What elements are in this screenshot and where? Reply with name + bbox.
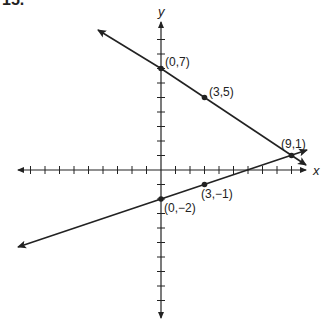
label-0-neg2: (0,−2) (164, 201, 196, 215)
label-9-1: (9,1) (281, 137, 306, 151)
y-axis-label: y (157, 4, 166, 19)
point-3-5 (202, 95, 208, 101)
line-1 (98, 30, 161, 69)
point-0-7 (158, 66, 164, 72)
label-3-5: (3,5) (209, 85, 234, 99)
line-2 (161, 150, 307, 199)
point-9-1 (289, 153, 295, 159)
label-0-7: (0,7) (165, 55, 190, 69)
coordinate-graph: x y (0,7) (3,5) (9,1) (0,−2) (3,−1) (0, 0, 328, 333)
x-axis-label: x (312, 163, 320, 178)
line-2 (18, 199, 161, 247)
label-3-neg1: (3,−1) (201, 187, 233, 201)
point-0-neg2 (158, 196, 164, 202)
